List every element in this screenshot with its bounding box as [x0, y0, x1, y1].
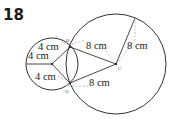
point-label-d: D: [65, 89, 69, 94]
label-small-r2: 4 cm: [28, 50, 49, 61]
dashed-helper: [72, 40, 85, 44]
label-large-r2: 8 cm: [127, 40, 148, 51]
label-small-r3: 4 cm: [35, 71, 56, 82]
center-large: [115, 63, 117, 65]
center-small: [51, 63, 53, 65]
point-label-c: C: [118, 66, 122, 71]
label-large-r1: 8 cm: [86, 40, 107, 51]
point-d: [69, 82, 71, 84]
point-label-b: B: [66, 38, 70, 43]
geometry-diagram: B C D 4 cm 4 cm 4 cm 8 cm 8 cm 8 cm: [0, 0, 171, 122]
point-b: [69, 46, 71, 48]
label-large-r3: 8 cm: [89, 77, 110, 88]
